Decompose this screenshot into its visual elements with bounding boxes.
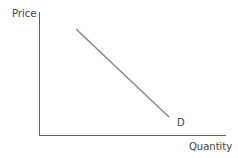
curve-label: D <box>177 118 185 128</box>
demand-curve <box>76 29 169 117</box>
demand-chart <box>0 0 238 158</box>
y-axis-label: Price <box>12 9 36 19</box>
x-axis-label: Quantity <box>189 142 232 152</box>
